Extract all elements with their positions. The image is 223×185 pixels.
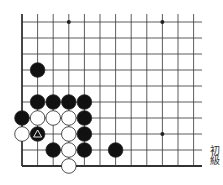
black-stone[interactable] [30,63,45,78]
black-stone[interactable] [46,95,61,110]
white-stone[interactable] [30,111,45,126]
difficulty-label: 初級 [210,146,223,166]
white-stone[interactable] [62,143,77,158]
black-stone[interactable] [108,143,123,158]
star-point [160,132,164,136]
star-point [67,20,71,24]
black-stone[interactable] [77,111,92,126]
black-stone[interactable] [30,127,45,142]
black-stone[interactable] [77,143,92,158]
black-stone[interactable] [30,95,45,110]
white-stone[interactable] [15,127,30,142]
white-stone[interactable] [62,159,77,174]
white-stone[interactable] [46,111,61,126]
star-point [160,20,164,24]
black-stone[interactable] [15,111,30,126]
white-stone[interactable] [62,111,77,126]
black-stone[interactable] [62,95,77,110]
go-board [0,0,223,185]
black-stone[interactable] [77,127,92,142]
black-stone[interactable] [77,95,92,110]
black-stone[interactable] [46,143,61,158]
white-stone[interactable] [62,127,77,142]
